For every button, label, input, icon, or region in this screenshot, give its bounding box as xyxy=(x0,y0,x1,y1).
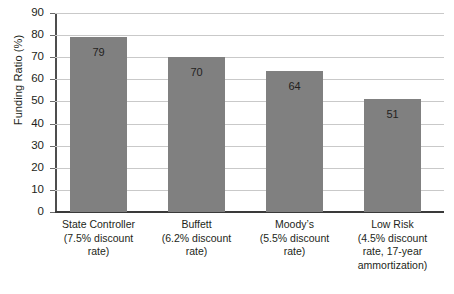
y-axis-tick-label: 60 xyxy=(14,73,44,85)
y-axis-tick-label: 50 xyxy=(14,95,44,107)
bar-value-label: 70 xyxy=(168,66,225,78)
gridline xyxy=(55,35,444,36)
x-axis-category-label: Low Risk(4.5% discountrate, 17-yearammor… xyxy=(337,218,449,272)
category-sublabel: (5.5% discount xyxy=(239,232,351,246)
bar: 51 xyxy=(364,99,421,212)
category-sublabel: (6.2% discount xyxy=(141,232,253,246)
x-axis-category-label: Buffett(6.2% discountrate) xyxy=(141,218,253,259)
y-axis-tick-label: 80 xyxy=(14,29,44,41)
gridline xyxy=(55,13,444,14)
category-sublabel: rate) xyxy=(239,245,351,259)
bar-value-label: 79 xyxy=(70,46,127,58)
category-sublabel: (7.5% discount xyxy=(43,232,155,246)
category-name: Moody’s xyxy=(239,218,351,232)
category-sublabel: ammortization) xyxy=(337,259,449,273)
y-axis-tick-label: 20 xyxy=(14,162,44,174)
category-sublabel: rate) xyxy=(43,245,155,259)
category-name: State Controller xyxy=(43,218,155,232)
x-axis-category-label: Moody’s(5.5% discountrate) xyxy=(239,218,351,259)
y-axis-tick-label: 30 xyxy=(14,140,44,152)
bar-value-label: 64 xyxy=(266,80,323,92)
bar: 70 xyxy=(168,57,225,212)
category-sublabel: rate) xyxy=(141,245,253,259)
y-axis-tick-label: 40 xyxy=(14,118,44,130)
y-axis-tick-label: 70 xyxy=(14,51,44,63)
y-axis-tick-label: 10 xyxy=(14,184,44,196)
x-axis-category-label: State Controller(7.5% discountrate) xyxy=(43,218,155,259)
category-sublabel: (4.5% discount xyxy=(337,232,449,246)
category-sublabel: rate, 17-year xyxy=(337,245,449,259)
plot-area: 79706451 xyxy=(55,13,444,212)
bar-chart: Funding Ratio (%) 9080706050403020100 79… xyxy=(0,0,454,294)
y-axis-tick-label: 90 xyxy=(14,7,44,19)
category-name: Buffett xyxy=(141,218,253,232)
bar: 64 xyxy=(266,71,323,213)
bar: 79 xyxy=(70,37,127,212)
y-axis-tick-label: 0 xyxy=(14,206,44,218)
category-name: Low Risk xyxy=(337,218,449,232)
bar-value-label: 51 xyxy=(364,108,421,120)
